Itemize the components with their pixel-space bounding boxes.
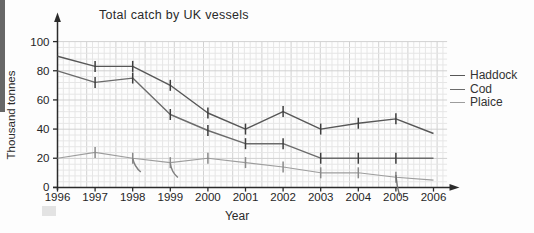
y-tick-label: 100 — [30, 36, 49, 48]
x-tick-label: 1999 — [158, 191, 184, 203]
graph-paper-grid — [58, 42, 448, 188]
legend-label-haddock: Haddock — [470, 69, 517, 83]
x-tick-label: 2000 — [195, 191, 221, 203]
x-tick-label: 1996 — [45, 191, 71, 203]
plaice-line-swatch — [450, 102, 465, 103]
series-line-haddock — [58, 56, 434, 133]
legend-item-haddock: Haddock — [450, 69, 517, 83]
y-tick-label: 80 — [37, 65, 50, 77]
chart-figure: 0204060801001996199719981999200020012002… — [0, 0, 534, 233]
x-tick-label: 2004 — [346, 191, 372, 203]
x-axis-title: Year — [225, 209, 249, 223]
x-tick-label: 2001 — [233, 191, 259, 203]
scan-smudge — [42, 206, 56, 216]
chart-title: Total catch by UK vessels — [99, 8, 249, 22]
legend: Haddock Cod Plaice — [450, 69, 517, 110]
scan-artifacts — [0, 0, 400, 216]
y-tick-label: 40 — [37, 123, 50, 135]
haddock-line-swatch — [450, 75, 465, 76]
y-axis-title: Thousand tonnes — [5, 71, 17, 160]
y-axis-arrowhead — [54, 13, 61, 23]
cod-line-swatch — [450, 89, 465, 90]
x-tick-label: 2006 — [421, 191, 447, 203]
x-tick-label: 1997 — [82, 191, 108, 203]
x-tick-label: 2002 — [270, 191, 296, 203]
legend-label-plaice: Plaice — [470, 96, 503, 110]
x-tick-label: 2005 — [383, 191, 409, 203]
x-tick-label: 2003 — [308, 191, 334, 203]
legend-label-cod: Cod — [470, 83, 492, 97]
line-chart: 0204060801001996199719981999200020012002… — [0, 0, 534, 233]
legend-item-cod: Cod — [450, 83, 517, 97]
legend-item-plaice: Plaice — [450, 96, 517, 110]
x-tick-label: 1998 — [120, 191, 146, 203]
y-tick-label: 60 — [37, 94, 50, 106]
x-axis-arrowhead — [450, 184, 460, 191]
y-tick-label: 20 — [37, 152, 50, 164]
